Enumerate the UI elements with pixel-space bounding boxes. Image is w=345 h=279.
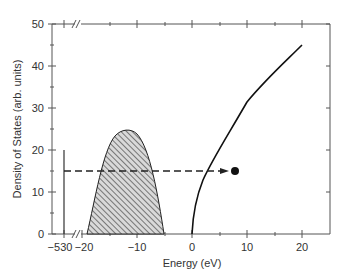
x-axis-title: Energy (eV)	[163, 257, 222, 269]
y-tick-label: 40	[32, 60, 44, 72]
x-tick-labels: −530 −20 −10 0 10 20	[48, 241, 309, 253]
x-tick-label: 0	[189, 241, 195, 253]
y-tick-label: 30	[32, 102, 44, 114]
y-axis-ticks	[48, 24, 330, 234]
x-tick-label: −10	[128, 241, 147, 253]
unoccupied-dos-curve	[192, 45, 302, 234]
y-tick-label: 20	[32, 144, 44, 156]
arrow-head-icon	[220, 168, 229, 174]
x-tick-label: 20	[296, 241, 308, 253]
y-tick-label: 10	[32, 186, 44, 198]
y-tick-label: 0	[38, 228, 44, 240]
x-tick-label: −530	[48, 241, 73, 253]
x-tick-label: −20	[75, 241, 94, 253]
electron-dot	[231, 167, 239, 175]
axis-break-icon	[72, 20, 80, 238]
y-tick-label: 50	[32, 18, 44, 30]
y-axis-title: Density of States (arb. units)	[11, 60, 23, 199]
occupied-band-area	[87, 130, 164, 234]
y-tick-labels: 0 10 20 30 40 50	[32, 18, 44, 240]
dos-chart: 0 10 20 30 40 50 −530 −20 −10 0 10 20 En…	[0, 0, 345, 279]
x-tick-label: 10	[241, 241, 253, 253]
